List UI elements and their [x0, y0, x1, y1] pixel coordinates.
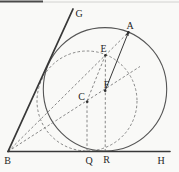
diagram-canvas: GAEFCBQRH [0, 0, 179, 172]
line-b-e-a [8, 32, 128, 151]
label-e: E [100, 43, 106, 54]
point-dot-e [104, 54, 107, 57]
label-g: G [75, 8, 82, 19]
label-f: F [104, 79, 110, 90]
geometry-diagram: GAEFCBQRH [0, 0, 179, 172]
label-q: Q [85, 155, 93, 166]
point-dot-a [127, 31, 130, 34]
label-b: B [4, 155, 11, 166]
segment-c-e [87, 55, 106, 101]
label-a: A [126, 20, 134, 31]
point-dot-c [86, 101, 89, 104]
label-r: R [103, 154, 110, 165]
label-c: C [78, 91, 85, 102]
label-h: H [157, 155, 164, 166]
